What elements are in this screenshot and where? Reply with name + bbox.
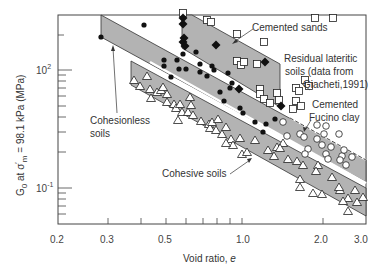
square-marker xyxy=(274,90,281,97)
chart: Cemented sands Residual lateritic soils … xyxy=(0,0,386,271)
label-fucino-1: Cemented xyxy=(312,99,358,110)
filled-circle-marker xyxy=(193,49,198,54)
filled-circle-marker xyxy=(272,116,277,121)
y-tick-labels: 102 10-1 xyxy=(36,63,53,194)
filled-circle-marker xyxy=(260,129,265,134)
x-tick-label: 2.0 xyxy=(314,234,328,245)
square-marker xyxy=(296,88,303,95)
open-circle-marker xyxy=(319,142,326,149)
filled-circle-marker xyxy=(197,69,202,74)
x-tick-label: 0.5 xyxy=(158,234,172,245)
filled-circle-marker xyxy=(237,105,242,110)
open-circle-marker xyxy=(328,144,335,151)
filled-circle-marker xyxy=(141,22,146,27)
filled-circle-marker xyxy=(98,34,103,39)
filled-circle-marker xyxy=(217,89,222,94)
filled-circle-marker xyxy=(240,110,245,115)
open-circle-marker xyxy=(341,147,348,154)
open-circle-marker xyxy=(280,119,287,126)
square-marker xyxy=(208,19,215,26)
x-tick-label: 3.0 xyxy=(354,234,368,245)
label-residual-3: Giacheti,1991) xyxy=(303,79,368,90)
filled-circle-marker xyxy=(252,119,257,124)
filled-circle-marker xyxy=(211,67,216,72)
open-circle-marker xyxy=(337,157,344,164)
square-marker xyxy=(298,103,305,110)
label-cohesionless-2: soils xyxy=(90,128,110,139)
label-residual-1: Residual lateritic xyxy=(284,53,357,64)
label-cemented-sands: Cemented sands xyxy=(252,22,328,33)
filled-circle-marker xyxy=(229,80,234,85)
square-marker xyxy=(330,15,337,22)
filled-circle-marker xyxy=(176,66,181,71)
open-circle-marker xyxy=(336,131,343,138)
square-marker xyxy=(254,61,261,68)
filled-circle-marker xyxy=(221,98,226,103)
filled-circle-marker xyxy=(174,57,179,62)
y-tick-label: 102 xyxy=(36,63,51,76)
square-marker xyxy=(290,106,297,113)
x-tick-labels: 0.2 0.3 0.5 1.0 2.0 3.0 xyxy=(50,234,368,245)
filled-circle-marker xyxy=(204,73,209,78)
filled-circle-marker xyxy=(197,61,202,66)
open-circle-marker xyxy=(325,156,332,163)
filled-circle-marker xyxy=(168,74,173,79)
filled-circle-marker xyxy=(180,51,185,56)
y-tick-label: 10-1 xyxy=(36,181,53,194)
square-marker xyxy=(312,15,319,22)
x-tick-label: 1.0 xyxy=(236,234,250,245)
x-axis-title: Void ratio, e xyxy=(183,253,236,264)
open-circle-marker xyxy=(314,136,321,143)
square-marker xyxy=(241,59,248,66)
label-cohesive: Cohesive soils xyxy=(162,168,226,179)
filled-circle-marker xyxy=(161,63,166,68)
open-circle-marker xyxy=(323,123,330,130)
open-circle-marker xyxy=(349,154,356,161)
filled-circle-marker xyxy=(225,70,230,75)
open-circle-marker xyxy=(343,162,350,169)
filled-circle-marker xyxy=(161,57,166,62)
square-marker xyxy=(261,39,268,46)
x-tick-label: 0.3 xyxy=(100,234,114,245)
open-circle-marker xyxy=(301,134,308,141)
label-fucino-2: Fucino clay xyxy=(309,112,360,123)
y-axis-title: G0 at σ′m = 98.1 kPa (MPa) xyxy=(13,75,29,196)
x-tick-label: 0.2 xyxy=(50,234,64,245)
square-marker xyxy=(267,100,274,107)
open-circle-marker xyxy=(321,131,328,138)
label-cohesionless-1: Cohesionless xyxy=(90,115,150,126)
label-residual-2: soils (data from xyxy=(285,66,353,77)
filled-circle-marker xyxy=(227,85,232,90)
filled-circle-marker xyxy=(263,121,268,126)
square-marker xyxy=(234,31,241,38)
filled-circle-marker xyxy=(183,66,188,71)
open-circle-marker xyxy=(284,133,291,140)
open-circle-marker xyxy=(302,151,309,158)
